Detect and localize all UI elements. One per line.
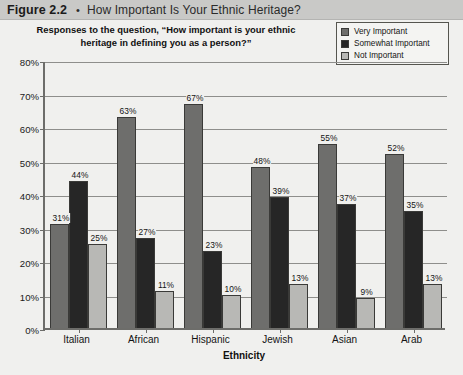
x-axis-category-label: Italian (43, 334, 110, 345)
legend-item-label: Not Important (354, 51, 404, 60)
y-axis-tick-mark (40, 330, 45, 331)
figure-number: Figure 2.2 (7, 3, 67, 17)
y-axis-tick-label: 20% (20, 258, 39, 269)
bar (423, 284, 442, 328)
bullet-separator-icon: • (76, 4, 80, 16)
bar (222, 295, 241, 329)
bar-value-label: 52% (387, 143, 406, 153)
bar-group: 63%27%11% (112, 60, 179, 328)
bar (88, 244, 107, 328)
bar-column: 52% (385, 60, 404, 328)
bar-column: 44% (69, 60, 88, 328)
y-axis-tick-label: 0% (25, 325, 39, 336)
y-axis-tick-label: 40% (20, 191, 39, 202)
bar-column: 39% (270, 60, 289, 328)
bar-column: 37% (337, 60, 356, 328)
bar (356, 298, 375, 328)
bar-column: 31% (50, 60, 69, 328)
bar-column: 25% (88, 60, 107, 328)
x-axis-tick-mark (213, 328, 214, 333)
bar-group: 55%37%9% (313, 60, 380, 328)
x-axis-title: Ethnicity (43, 350, 445, 361)
x-axis-category-label: Arab (378, 334, 445, 345)
bar-value-label: 63% (119, 106, 138, 116)
bar-group: 67%23%10% (179, 60, 246, 328)
bar (404, 211, 423, 328)
bar-column: 48% (251, 60, 270, 328)
legend-swatch-icon (341, 28, 349, 36)
bar-column: 23% (203, 60, 222, 328)
bar-value-label: 25% (90, 233, 109, 243)
legend-item-label: Very Important (354, 27, 407, 36)
bar (136, 238, 155, 328)
bar (289, 284, 308, 328)
bar-value-label: 13% (291, 273, 310, 283)
bar (69, 181, 88, 328)
bar-value-label: 39% (272, 186, 291, 196)
bar-groups: 31%44%25%63%27%11%67%23%10%48%39%13%55%3… (45, 60, 447, 328)
bar (251, 167, 270, 328)
bar-value-label: 9% (360, 287, 374, 297)
bar-group: 48%39%13% (246, 60, 313, 328)
figure-header-bar: Figure 2.2 • How Important Is Your Ethni… (0, 0, 463, 20)
figure-page: Figure 2.2 • How Important Is Your Ethni… (0, 0, 463, 375)
y-axis-tick-label: 70% (20, 90, 39, 101)
bar-group: 31%44%25% (45, 60, 112, 328)
legend-swatch-icon (341, 52, 349, 60)
x-axis-tick-mark (79, 328, 80, 333)
chart-subtitle: Responses to the question, “How importan… (26, 24, 306, 49)
bar (184, 104, 203, 328)
x-axis-category-label: Jewish (244, 334, 311, 345)
chart-container: Responses to the question, “How importan… (0, 20, 463, 375)
bar-column: 9% (356, 60, 375, 328)
bar-column: 13% (289, 60, 308, 328)
bar-value-label: 27% (138, 227, 157, 237)
legend-item-label: Somewhat Important (354, 39, 430, 48)
x-axis-tick-mark (146, 328, 147, 333)
bar-value-label: 35% (406, 200, 425, 210)
x-axis-category-label: Hispanic (177, 334, 244, 345)
legend-item: Somewhat Important (341, 38, 444, 49)
bar-column: 27% (136, 60, 155, 328)
bar (203, 251, 222, 328)
figure-title: How Important Is Your Ethnic Heritage? (87, 3, 301, 17)
bar-column: 63% (117, 60, 136, 328)
bar-column: 55% (318, 60, 337, 328)
bar-value-label: 67% (186, 93, 205, 103)
bar-value-label: 23% (205, 240, 224, 250)
x-axis-tick-mark (280, 328, 281, 333)
bar-value-label: 31% (52, 213, 71, 223)
legend-item: Very Important (341, 26, 444, 37)
y-axis-tick-label: 10% (20, 291, 39, 302)
bar-value-label: 10% (224, 284, 243, 294)
bar (117, 117, 136, 328)
bar (318, 144, 337, 328)
bar-value-label: 44% (71, 170, 90, 180)
x-axis-tick-labels: ItalianAfricanHispanicJewishAsianArab (43, 334, 445, 345)
bar-value-label: 11% (157, 280, 175, 290)
x-axis-tick-mark (414, 328, 415, 333)
x-axis-tick-mark (347, 328, 348, 333)
bar-value-label: 37% (339, 193, 358, 203)
y-axis-tick-label: 50% (20, 157, 39, 168)
y-axis-tick-label: 60% (20, 124, 39, 135)
x-axis-category-label: Asian (311, 334, 378, 345)
bar-column: 67% (184, 60, 203, 328)
bar (337, 204, 356, 328)
bar-value-label: 13% (425, 273, 444, 283)
y-axis-tick-label: 80% (20, 57, 39, 68)
bar-group: 52%35%13% (380, 60, 447, 328)
bar-column: 35% (404, 60, 423, 328)
bar-column: 11% (155, 60, 174, 328)
x-axis-category-label: African (110, 334, 177, 345)
bar-column: 13% (423, 60, 442, 328)
chart-legend: Very ImportantSomewhat ImportantNot Impo… (336, 22, 449, 65)
bar (155, 291, 174, 328)
bar (385, 154, 404, 328)
bar-column: 10% (222, 60, 241, 328)
bar (50, 224, 69, 328)
bar-value-label: 48% (253, 156, 272, 166)
bar-value-label: 55% (320, 133, 339, 143)
bar (270, 197, 289, 328)
plot-area: 0%10%20%30%40%50%60%70%80% 31%44%25%63%2… (43, 62, 445, 330)
